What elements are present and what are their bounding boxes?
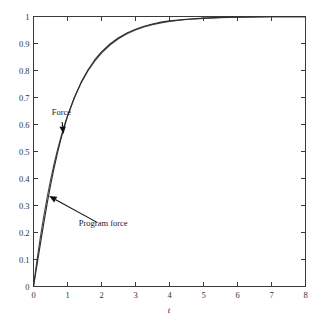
annotation-label-0: Force [52, 107, 72, 117]
x-tick-label-0: 0 [31, 290, 35, 300]
x-tick-label-2: 2 [99, 290, 103, 300]
y-tick-label-2: 0.2 [19, 228, 30, 238]
chart-background [0, 0, 321, 325]
y-tick-label-10: 1 [25, 12, 29, 22]
annotation-label-1: Program force [79, 218, 128, 228]
y-tick-label-0: 0 [25, 282, 29, 292]
y-tick-label-9: 0.9 [19, 39, 30, 49]
x-tick-label-7: 7 [269, 290, 273, 300]
chart-figure: 012345678 00.10.20.30.40.50.60.70.80.91 … [0, 0, 321, 325]
exponential-response-chart: 012345678 00.10.20.30.40.50.60.70.80.91 … [0, 0, 321, 325]
x-tick-label-5: 5 [201, 290, 205, 300]
x-tick-label-8: 8 [303, 290, 307, 300]
y-tick-label-8: 0.8 [19, 66, 30, 76]
x-tick-label-1: 1 [65, 290, 69, 300]
y-tick-label-4: 0.4 [19, 174, 30, 184]
y-tick-label-3: 0.3 [19, 201, 30, 211]
x-tick-label-3: 3 [133, 290, 137, 300]
y-tick-label-6: 0.6 [19, 120, 30, 130]
y-tick-label-7: 0.7 [19, 93, 30, 103]
y-tick-label-5: 0.5 [19, 147, 30, 157]
y-tick-label-1: 0.1 [19, 255, 30, 265]
x-tick-label-6: 6 [235, 290, 239, 300]
